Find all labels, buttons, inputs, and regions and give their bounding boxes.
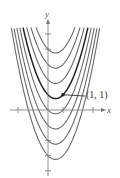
x-axis-label: x (107, 106, 111, 115)
family-curve (27, 27, 85, 83)
family-curve (14, 28, 97, 144)
point-marker (61, 93, 65, 97)
highlighted-curve (23, 28, 88, 99)
family-curve (36, 27, 75, 53)
y-axis-label: y (45, 10, 49, 19)
leader-line (63, 95, 85, 96)
x-axis-arrow-icon (101, 108, 106, 112)
y-axis-arrow-icon (46, 19, 50, 24)
point-label: (1, 1) (86, 90, 108, 100)
